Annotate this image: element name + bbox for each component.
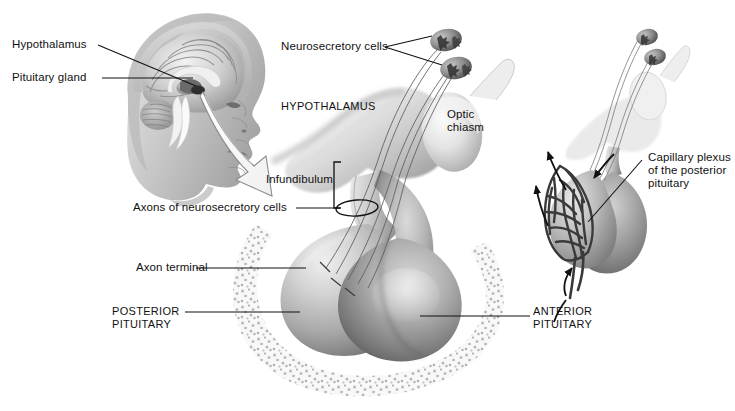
label-capillary-plexus: Capillary plexus of the posterior pituit… <box>648 151 731 190</box>
label-infundibulum: Infundibulum <box>266 173 333 186</box>
label-hypothalamus-head: Hypothalamus <box>12 38 87 51</box>
label-axon-terminal: Axon terminal <box>136 261 208 274</box>
anatomy-illustration <box>0 0 735 411</box>
label-pituitary-gland-head: Pituitary gland <box>12 71 86 84</box>
label-axons-of-neurosecretory-cells: Axons of neurosecretory cells <box>133 201 287 214</box>
label-optic-chiasm: Optic chiasm <box>447 108 484 134</box>
label-anterior-pituitary: ANTERIOR PITUITARY <box>533 305 592 331</box>
label-neurosecretory-cells: Neurosecretory cells <box>281 40 388 53</box>
label-posterior-pituitary: POSTERIOR PITUITARY <box>112 305 180 331</box>
anatomy-figure: Hypothalamus Pituitary gland Neurosecret… <box>0 0 735 411</box>
label-hypothalamus-main: HYPOTHALAMUS <box>281 100 376 113</box>
cerebellum <box>140 100 176 130</box>
